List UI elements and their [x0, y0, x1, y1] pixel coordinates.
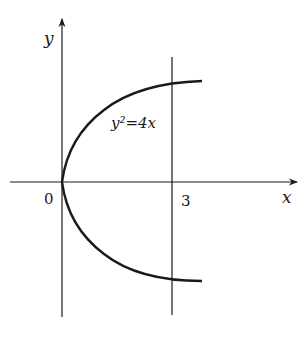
x-axis-label: x — [282, 187, 292, 207]
tick-label-3: 3 — [181, 192, 191, 210]
parabola-curve — [62, 81, 202, 281]
origin-label: 0 — [44, 190, 54, 208]
parabola-diagram: y x 0 3 y²=4x — [0, 0, 305, 343]
y-axis-label: y — [43, 28, 54, 48]
equation-label: y²=4x — [110, 114, 157, 132]
